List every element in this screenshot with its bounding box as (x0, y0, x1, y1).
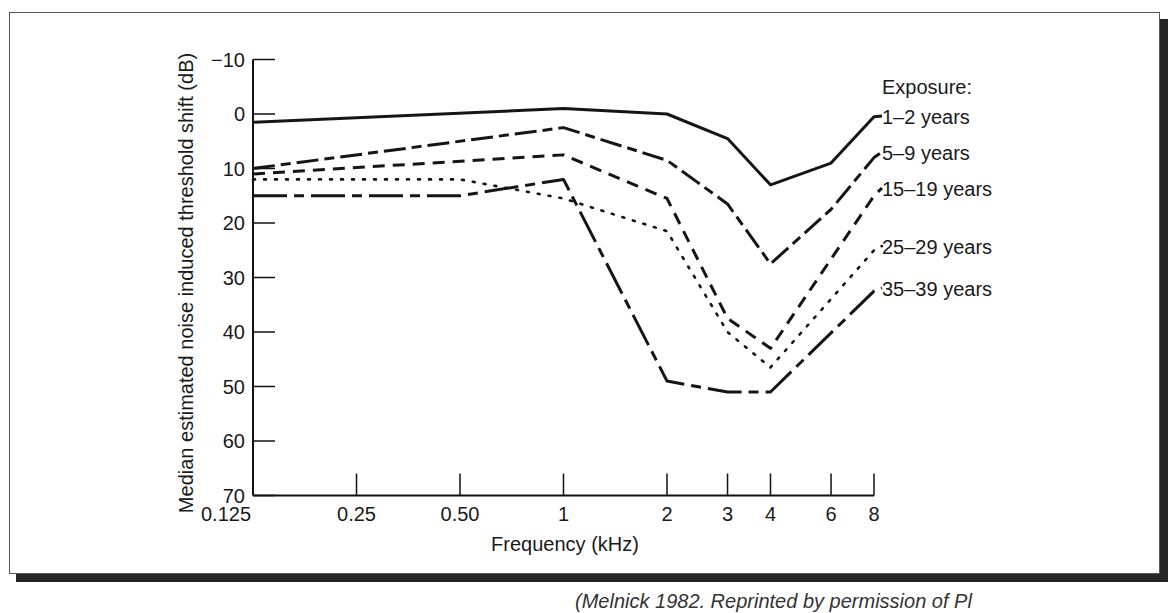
x-tick-label: 8 (868, 503, 879, 525)
figure-caption: (Melnick 1982. Reprinted by permission o… (575, 590, 972, 613)
legend-label: 25–29 years (882, 236, 992, 258)
series-line (253, 155, 882, 348)
series-line (253, 179, 882, 392)
y-axis-label: Median estimated noise induced threshold… (175, 53, 197, 513)
x-axis-label: Frequency (kHz) (491, 533, 639, 555)
series-line (253, 109, 882, 185)
x-tick-label: 3 (722, 503, 733, 525)
y-tick-label: −10 (211, 49, 245, 71)
legend-label: 15–19 years (882, 178, 992, 200)
legend: Exposure:1–2 years5–9 years15–19 years25… (882, 76, 992, 300)
x-tick-label: 2 (661, 503, 672, 525)
series-line (253, 128, 882, 264)
legend-label: 1–2 years (882, 106, 970, 128)
x-tick-label: 0.50 (441, 503, 480, 525)
x-tick-label: 6 (825, 503, 836, 525)
y-tick-label: 40 (223, 321, 245, 343)
y-tick-label: 10 (223, 158, 245, 180)
x-tick-label: 4 (765, 503, 776, 525)
series-lines (253, 109, 882, 392)
legend-title: Exposure: (882, 76, 972, 98)
y-tick-label: 50 (223, 376, 245, 398)
series-line (253, 179, 882, 367)
legend-label: 5–9 years (882, 142, 970, 164)
y-tick-label: 20 (223, 212, 245, 234)
x-tick-label: 0.25 (337, 503, 376, 525)
x-tick-label: 1 (558, 503, 569, 525)
y-tick-label: 60 (223, 430, 245, 452)
y-tick-label: 0 (234, 103, 245, 125)
x-tick-label: 0.125 (201, 503, 251, 525)
legend-label: 35–39 years (882, 278, 992, 300)
y-tick-label: 30 (223, 267, 245, 289)
